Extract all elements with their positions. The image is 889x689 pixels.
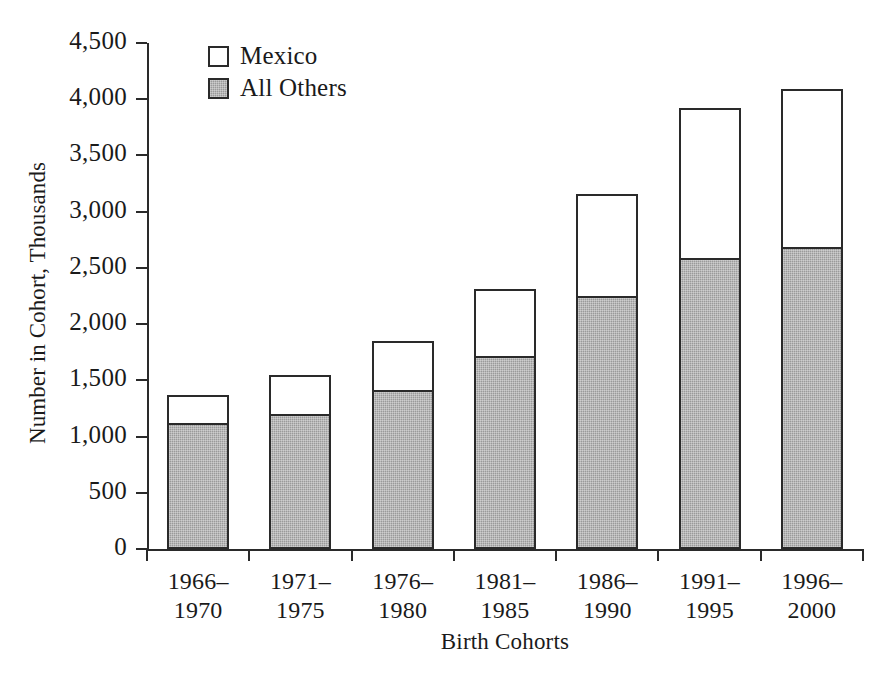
- bar-group[interactable]: [679, 43, 741, 549]
- bar-group[interactable]: [372, 43, 434, 549]
- bar-segment-all-others[interactable]: [269, 414, 331, 549]
- x-axis-tick-label-line: 1990: [556, 596, 658, 625]
- x-axis-tick-label: 1966–1970: [147, 567, 249, 625]
- bar-segment-mexico[interactable]: [167, 395, 229, 425]
- y-axis-line: [147, 43, 149, 549]
- x-axis-tick-label-line: 1980: [352, 596, 454, 625]
- x-axis-tick-label-line: 1975: [249, 596, 351, 625]
- x-axis-title: Birth Cohorts: [147, 629, 863, 655]
- y-axis-tick-label: 3,500: [69, 140, 127, 168]
- y-axis-tick: 3,000: [136, 211, 147, 213]
- x-axis-tick-label: 1996–2000: [761, 567, 863, 625]
- x-axis-tick: [453, 549, 455, 561]
- x-axis-tick: [248, 549, 250, 561]
- bar-segment-mexico[interactable]: [474, 289, 536, 357]
- x-axis-tick: [760, 549, 762, 561]
- bar-segment-mexico[interactable]: [269, 375, 331, 416]
- x-axis-tick-label: 1981–1985: [454, 567, 556, 625]
- bar-segment-mexico[interactable]: [372, 341, 434, 392]
- x-axis-tick: [146, 549, 148, 561]
- bar-segment-all-others[interactable]: [167, 423, 229, 549]
- legend: Mexico All Others: [208, 40, 347, 104]
- y-axis-tick: 1,000: [136, 436, 147, 438]
- x-axis-tick-label-line: 1986–: [556, 567, 658, 596]
- legend-item-mexico[interactable]: Mexico: [208, 40, 347, 72]
- y-axis-tick-label: 1,500: [69, 365, 127, 393]
- bar-segment-mexico[interactable]: [679, 108, 741, 260]
- x-axis-tick: [862, 549, 864, 561]
- x-axis-tick-label-line: 2000: [761, 596, 863, 625]
- x-axis-tick-label-line: 1976–: [352, 567, 454, 596]
- legend-swatch-all-others-icon: [208, 78, 229, 99]
- y-axis-tick-label: 500: [89, 477, 127, 505]
- y-axis-tick-label: 3,000: [69, 196, 127, 224]
- legend-label-all-others: All Others: [240, 74, 347, 102]
- y-axis-tick-label: 2,500: [69, 252, 127, 280]
- x-axis-tick: [351, 549, 353, 561]
- bar-group[interactable]: [781, 43, 843, 549]
- bar-segment-all-others[interactable]: [679, 258, 741, 549]
- y-axis-tick-label: 4,000: [69, 84, 127, 112]
- legend-label-mexico: Mexico: [240, 42, 318, 70]
- x-axis-tick-label-line: 1966–: [147, 567, 249, 596]
- y-axis-tick-label: 4,500: [69, 27, 127, 55]
- x-axis-tick-label-line: 1991–: [658, 567, 760, 596]
- y-axis-tick: 3,500: [136, 154, 147, 156]
- bar-segment-all-others[interactable]: [372, 390, 434, 549]
- x-axis-tick-label-line: 1981–: [454, 567, 556, 596]
- y-axis-title: Number in Cohort, Thousands: [25, 93, 51, 513]
- y-axis-tick: 2,500: [136, 267, 147, 269]
- y-axis-tick-label: 1,000: [69, 421, 127, 449]
- y-axis-tick: 4,500: [136, 42, 147, 44]
- bar-segment-mexico[interactable]: [576, 194, 638, 298]
- y-axis-tick-label: 0: [114, 533, 127, 561]
- bar-segment-all-others[interactable]: [474, 356, 536, 549]
- x-axis-tick-label-line: 1995: [658, 596, 760, 625]
- y-axis-tick: 1,500: [136, 379, 147, 381]
- x-axis-tick-label-line: 1971–: [249, 567, 351, 596]
- bar-group[interactable]: [167, 43, 229, 549]
- bar-segment-mexico[interactable]: [781, 89, 843, 248]
- x-axis-tick-label: 1976–1980: [352, 567, 454, 625]
- plot-area: 05001,0001,5002,0002,5003,0003,5004,0004…: [147, 43, 863, 549]
- bar-segment-all-others[interactable]: [781, 247, 843, 549]
- legend-item-all-others[interactable]: All Others: [208, 72, 347, 104]
- chart-figure: Number in Cohort, Thousands 05001,0001,5…: [0, 0, 889, 689]
- x-axis-tick-label: 1971–1975: [249, 567, 351, 625]
- legend-swatch-mexico-icon: [208, 46, 229, 67]
- x-axis-tick-label: 1991–1995: [658, 567, 760, 625]
- x-axis-tick-label: 1986–1990: [556, 567, 658, 625]
- x-axis-tick-label-line: 1996–: [761, 567, 863, 596]
- bar-segment-all-others[interactable]: [576, 296, 638, 549]
- x-axis-tick-label-line: 1985: [454, 596, 556, 625]
- x-axis-tick: [555, 549, 557, 561]
- x-axis-tick-label-line: 1970: [147, 596, 249, 625]
- x-axis-tick: [657, 549, 659, 561]
- x-axis-line: [147, 549, 863, 551]
- y-axis-tick: 4,000: [136, 98, 147, 100]
- y-axis-tick: 2,000: [136, 323, 147, 325]
- bar-group[interactable]: [576, 43, 638, 549]
- bar-group[interactable]: [474, 43, 536, 549]
- y-axis-tick-label: 2,000: [69, 309, 127, 337]
- bar-group[interactable]: [269, 43, 331, 549]
- y-axis-tick: 500: [136, 492, 147, 494]
